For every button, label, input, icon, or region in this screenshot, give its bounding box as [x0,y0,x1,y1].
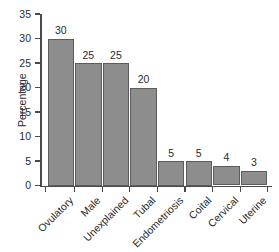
bar [48,39,75,186]
bar [158,161,185,186]
y-axis-tick [35,87,41,88]
bar [213,166,240,186]
bar-value-label: 20 [124,74,163,85]
bar [186,161,213,186]
y-axis-tick-label: 0 [5,180,31,191]
y-axis-tick [35,38,41,39]
x-axis-tick [157,187,158,193]
y-axis-tick-label: 15 [5,107,31,118]
y-axis-tick [35,111,41,112]
x-axis-tick [212,187,213,193]
bar [75,63,102,186]
y-axis-tick [35,160,41,161]
y-axis-tick-label: 5 [5,156,31,167]
x-axis-tick [74,187,75,193]
bar [241,171,268,186]
x-axis-tick [102,187,103,193]
y-axis-tick [35,185,41,186]
x-axis-tick [129,187,130,193]
y-axis-tick [35,136,41,137]
bar-value-label: 30 [42,25,81,36]
y-axis-tick-label: 30 [5,33,31,44]
y-axis-line [40,14,42,186]
bar-value-label: 25 [97,50,136,61]
y-axis-tick-label: 25 [5,58,31,69]
x-axis-tick [45,187,46,193]
y-axis-tick-label: 35 [5,9,31,20]
bar [130,88,157,186]
x-axis-tick [267,187,268,193]
y-axis-tick-label: 10 [5,131,31,142]
x-axis-tick [184,187,185,193]
bar-value-label: 3 [235,157,274,168]
x-axis-tick [240,187,241,193]
y-axis-tick [35,13,41,14]
y-axis-tick [35,62,41,63]
y-axis-tick-label: 20 [5,82,31,93]
